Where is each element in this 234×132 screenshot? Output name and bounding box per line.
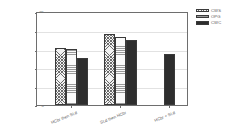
legend-label-opg: OPG <box>211 14 221 19</box>
bar-cwc-group3[interactable] <box>164 54 175 105</box>
bar-cwc-group1[interactable] <box>77 58 88 105</box>
bar-group-3 <box>153 13 189 105</box>
bar-opg-group1[interactable] <box>66 49 77 105</box>
x-tick-mark-1 <box>71 106 72 108</box>
bar-group-2 <box>104 13 140 105</box>
bar-opg-group2[interactable] <box>115 37 126 105</box>
x-tick-mark-2 <box>120 106 121 108</box>
legend-label-cwc: CWC <box>211 20 221 25</box>
x-cat-label-1: HCbr then SLd <box>39 110 78 130</box>
legend: CWS OPG CWC <box>196 8 234 27</box>
y-tick-mark-25 <box>35 13 37 14</box>
y-tick-mark-10 <box>35 69 37 70</box>
y-tick-mark-5 <box>35 88 37 89</box>
legend-swatch-opg-icon <box>196 15 209 19</box>
bar-chart-figure: Cost (Millions $) 25 20 15 10 5 0 <box>0 0 234 132</box>
y-axis-label: Cost (Millions $) <box>0 0 4 16</box>
y-tick-mark-15 <box>35 51 37 52</box>
bar-cwc-group2[interactable] <box>126 40 137 105</box>
bar-cws-group2[interactable] <box>104 34 115 105</box>
y-tick-mark-20 <box>35 32 37 33</box>
y-tick-mark-0 <box>35 106 37 107</box>
legend-swatch-cwc-icon <box>196 21 209 25</box>
x-cat-label-3: HCbr + SLd <box>139 110 176 129</box>
legend-item-cwc[interactable]: CWC <box>196 20 234 25</box>
legend-label-cws: CWS <box>211 8 221 13</box>
legend-swatch-cws-icon <box>196 9 209 13</box>
bar-group-1 <box>55 13 91 105</box>
x-cat-label-2: SLd then HCbr <box>88 110 127 130</box>
plot-area <box>36 12 188 106</box>
legend-item-cws[interactable]: CWS <box>196 8 234 13</box>
legend-item-opg[interactable]: OPG <box>196 14 234 19</box>
bar-cws-group1[interactable] <box>55 48 66 106</box>
x-tick-mark-3 <box>169 106 170 108</box>
